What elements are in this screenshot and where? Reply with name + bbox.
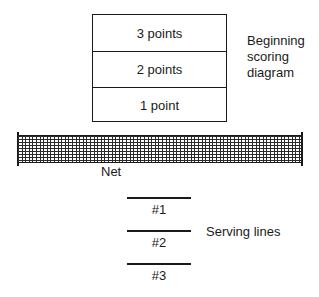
zone-label: 1 point	[140, 98, 179, 113]
net	[18, 135, 303, 163]
zone-label: 3 points	[137, 26, 183, 41]
caption-line: scoring	[247, 49, 305, 65]
scoring-diagram-caption: Beginning scoring diagram	[247, 33, 305, 81]
net-post-right	[301, 132, 303, 166]
zone-1-point: 1 point	[93, 87, 226, 123]
caption-line: Beginning	[247, 33, 305, 49]
caption-line: diagram	[247, 65, 305, 81]
zone-3-points: 3 points	[93, 15, 226, 51]
zone-2-points: 2 points	[93, 51, 226, 87]
serving-line-1	[127, 197, 191, 199]
serving-line-3	[127, 263, 191, 265]
serving-line-label: #1	[127, 202, 191, 217]
zone-label: 2 points	[137, 62, 183, 77]
serving-lines-caption: Serving lines	[206, 224, 280, 240]
net-label: Net	[101, 164, 121, 180]
serving-line-label: #2	[127, 235, 191, 250]
scoring-diagram-box: 3 points 2 points 1 point	[92, 14, 227, 122]
serving-line-2	[127, 230, 191, 232]
serving-line-label: #3	[127, 268, 191, 283]
